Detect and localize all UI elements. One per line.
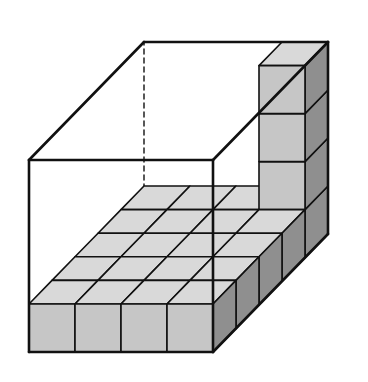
cube-front-face (167, 304, 213, 352)
cube-box-diagram (0, 0, 368, 382)
cube-front-face (29, 304, 75, 352)
cube-front-face (259, 114, 305, 162)
cube-front-face (259, 162, 305, 210)
cube-front-face (121, 304, 167, 352)
cube-front-face (75, 304, 121, 352)
diagram-canvas (0, 0, 368, 382)
box-edge (29, 42, 144, 160)
